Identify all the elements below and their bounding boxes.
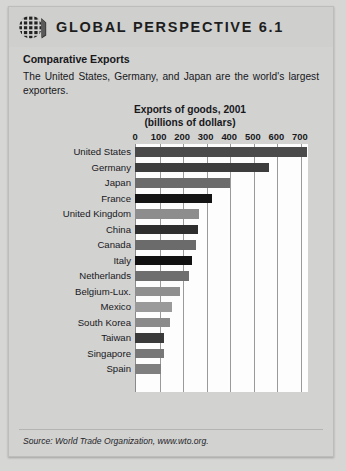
section-subtitle: Comparative Exports (23, 53, 319, 65)
x-tick-600: 600 (269, 131, 285, 142)
bar-label-germany: Germany (23, 162, 131, 173)
page-title: GLOBAL PERSPECTIVE 6.1 (56, 19, 284, 35)
bar-label-japan: Japan (23, 177, 131, 188)
bar-label-netherlands: Netherlands (23, 270, 131, 281)
bar-row: United Kingdom (23, 206, 319, 222)
x-tick-100: 100 (151, 131, 167, 142)
bar-row: Canada (23, 237, 319, 253)
chart-title: Exports of goods, 2001 (billions of doll… (61, 104, 319, 129)
bar-label-italy: Italy (23, 255, 131, 266)
footer-divider (19, 429, 323, 430)
plot: United StatesGermanyJapanFranceUnited Ki… (23, 144, 319, 392)
bar-label-singapore: Singapore (23, 348, 131, 359)
x-tick-300: 300 (198, 131, 214, 142)
card-header: GLOBAL PERSPECTIVE 6.1 (9, 7, 333, 47)
x-tick-0: 0 (132, 131, 137, 142)
chart-title-line1: Exports of goods, 2001 (61, 104, 319, 117)
bar-row: Mexico (23, 299, 319, 315)
bar-china (135, 225, 198, 235)
bar-row: Singapore (23, 346, 319, 362)
bar-label-mexico: Mexico (23, 301, 131, 312)
chart-title-line2: (billions of dollars) (61, 117, 319, 130)
bar-spain (135, 364, 161, 374)
exports-bar-chart: Exports of goods, 2001 (billions of doll… (23, 104, 319, 394)
bar-row: Spain (23, 361, 319, 377)
bar-label-united-kingdom: United Kingdom (23, 208, 131, 219)
bar-belgium-lux (135, 287, 180, 297)
bar-row: South Korea (23, 315, 319, 331)
bar-italy (135, 256, 192, 266)
section-intro: The United States, Germany, and Japan ar… (23, 70, 319, 98)
bar-united-states (135, 147, 307, 157)
globe-grid-icon (17, 13, 47, 41)
x-axis-ticks: 0100200300400500600700 (23, 131, 319, 144)
bar-row: Italy (23, 253, 319, 269)
x-tick-400: 400 (221, 131, 237, 142)
bar-france (135, 194, 212, 204)
bar-label-france: France (23, 193, 131, 204)
bar-label-south-korea: South Korea (23, 317, 131, 328)
bar-label-belgium-lux: Belgium-Lux. (23, 286, 131, 297)
bar-row: Netherlands (23, 268, 319, 284)
bar-label-spain: Spain (23, 363, 131, 374)
bar-label-canada: Canada (23, 239, 131, 250)
bar-japan (135, 178, 230, 188)
x-tick-700: 700 (292, 131, 308, 142)
bar-row: Taiwan (23, 330, 319, 346)
source-note: Source: World Trade Organization, www.wt… (23, 436, 209, 446)
x-tick-500: 500 (245, 131, 261, 142)
bar-south-korea (135, 318, 170, 328)
bar-row: Germany (23, 160, 319, 176)
bar-netherlands (135, 271, 189, 281)
bar-row: Japan (23, 175, 319, 191)
bar-row: Belgium-Lux. (23, 284, 319, 300)
page-root: GLOBAL PERSPECTIVE 6.1 Comparative Expor… (0, 0, 346, 471)
bar-label-united-states: United States (23, 146, 131, 157)
bar-taiwan (135, 333, 164, 343)
bar-row: China (23, 222, 319, 238)
bar-row: France (23, 191, 319, 207)
global-perspective-card: GLOBAL PERSPECTIVE 6.1 Comparative Expor… (8, 6, 334, 457)
bar-singapore (135, 349, 164, 359)
bar-label-china: China (23, 224, 131, 235)
bar-rows: United StatesGermanyJapanFranceUnited Ki… (23, 144, 319, 392)
bar-united-kingdom (135, 209, 199, 219)
bar-label-taiwan: Taiwan (23, 332, 131, 343)
bar-row: United States (23, 144, 319, 160)
bar-canada (135, 240, 196, 250)
card-body: Comparative Exports The United States, G… (9, 47, 333, 394)
bar-mexico (135, 302, 172, 312)
bar-germany (135, 163, 269, 173)
x-tick-200: 200 (174, 131, 190, 142)
